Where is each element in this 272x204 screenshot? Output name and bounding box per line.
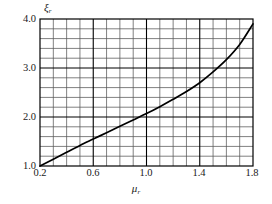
- y-tick-label: 4.0: [8, 14, 36, 24]
- x-tick-label: 0.6: [78, 167, 108, 178]
- x-tick-label: 0.2: [25, 167, 55, 178]
- chart-figure: ξr 4.0 3.0 2.0 1.0 0.2 0.6 1.0 1.4 1.8 μ…: [0, 0, 272, 204]
- x-axis-label-subscript: r: [137, 188, 140, 196]
- x-tick-label: 1.0: [131, 167, 161, 178]
- y-axis-label: ξr: [44, 1, 51, 15]
- x-axis-label: μr: [0, 182, 272, 196]
- x-tick-label: 1.8: [237, 167, 267, 178]
- grid-major-lines: [40, 19, 253, 166]
- x-tick-label: 1.4: [184, 167, 214, 178]
- y-axis-label-subscript: r: [49, 7, 52, 15]
- y-tick-label: 2.0: [8, 112, 36, 122]
- y-tick-label: 3.0: [8, 63, 36, 73]
- x-axis-tick-labels: 0.2 0.6 1.0 1.4 1.8: [0, 167, 272, 181]
